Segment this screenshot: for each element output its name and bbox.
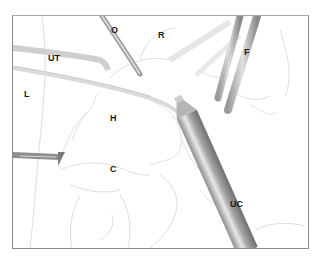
- label-h: H: [110, 114, 117, 123]
- label-c: C: [110, 165, 117, 174]
- label-l: L: [24, 90, 30, 99]
- label-r: R: [158, 31, 165, 40]
- label-ut: UT: [48, 54, 60, 63]
- label-uc: UC: [230, 200, 243, 209]
- label-o: O: [111, 26, 118, 35]
- label-f: F: [244, 48, 250, 57]
